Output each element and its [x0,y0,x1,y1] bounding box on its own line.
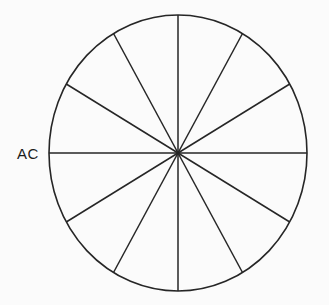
ac-label: AC [17,146,39,161]
figure-root: AC [0,0,329,305]
spoke-group [49,15,307,291]
sector-circle-diagram [0,0,329,305]
